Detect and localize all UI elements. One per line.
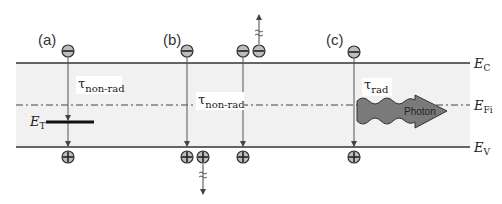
band-diagram: EC EFi EV (a) τnon-rad ET (b) τnon-rad ( — [0, 0, 502, 204]
hole-icon — [197, 151, 209, 163]
electron-icon — [253, 45, 265, 57]
hole-icon — [181, 151, 193, 163]
panel-b-label: (b) — [163, 31, 181, 48]
hole-icon — [237, 151, 249, 163]
electron-icon — [181, 45, 193, 57]
ec-label: EC — [473, 56, 491, 73]
electron-icon — [237, 45, 249, 57]
photon-label: Photon — [404, 106, 436, 117]
electron-icon — [348, 46, 360, 58]
electron-icon — [62, 45, 74, 57]
ev-label: EV — [473, 140, 491, 157]
panel-a-label: (a) — [38, 31, 56, 48]
hole-icon — [62, 151, 74, 163]
panel-c-label: (c) — [326, 31, 344, 48]
hole-icon — [348, 151, 360, 163]
efi-label: EFi — [473, 98, 493, 115]
